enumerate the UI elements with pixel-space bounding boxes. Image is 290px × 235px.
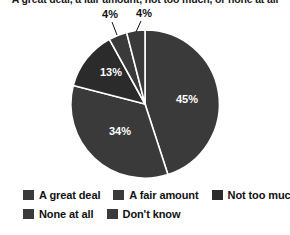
- pie-label-none-at-all: 4%: [102, 8, 118, 20]
- pie-chart-figure: A great deal, a fair amount, not too muc…: [0, 0, 290, 235]
- chart-legend: A great deal A fair amount Not too much …: [0, 185, 290, 223]
- pie-label-a-fair-amount: 34%: [109, 125, 131, 137]
- legend-item-a-fair-amount[interactable]: A fair amount: [113, 189, 198, 201]
- legend-item-dont-know[interactable]: Don't know: [107, 208, 181, 220]
- legend-label: A great deal: [39, 189, 100, 201]
- legend-item-not-too-much[interactable]: Not too much: [212, 189, 290, 201]
- legend-swatch-icon: [107, 209, 118, 219]
- legend-swatch-icon: [113, 190, 124, 200]
- legend-swatch-icon: [212, 190, 223, 200]
- legend-item-none-at-all[interactable]: None at all: [23, 208, 94, 220]
- legend-item-a-great-deal[interactable]: A great deal: [23, 189, 100, 201]
- legend-label: None at all: [39, 208, 94, 220]
- legend-row-2: None at all Don't know: [0, 204, 290, 223]
- legend-swatch-icon: [23, 209, 34, 219]
- legend-row-1: A great deal A fair amount Not too much: [0, 185, 290, 204]
- legend-label: Not too much: [228, 189, 290, 201]
- callout-line-none-at-all: [112, 22, 117, 35]
- legend-swatch-icon: [23, 190, 34, 200]
- legend-label: A fair amount: [129, 189, 198, 201]
- pie-label-a-great-deal: 45%: [176, 93, 198, 105]
- pie-svg: 45% 34% 13% 4% 4%: [0, 0, 290, 186]
- pie-plot-area: 45% 34% 13% 4% 4%: [0, 0, 290, 186]
- pie-label-dont-know: 4%: [136, 7, 152, 19]
- pie-label-not-too-much: 13%: [100, 66, 122, 78]
- legend-label: Don't know: [123, 208, 181, 220]
